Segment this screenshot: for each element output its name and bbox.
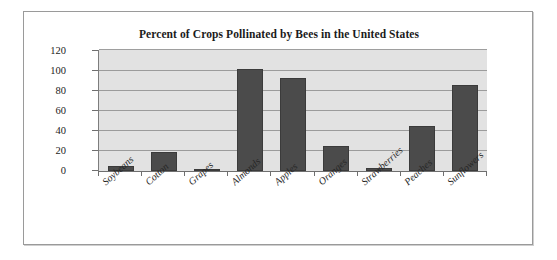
- bar-almonds: [237, 69, 263, 171]
- x-axis-tick-9: [486, 171, 487, 176]
- y-axis-label-0: 0: [26, 166, 66, 177]
- x-axis-tick-3: [227, 171, 228, 176]
- y-axis-label-120: 120: [26, 46, 66, 57]
- y-axis-label-40: 40: [26, 126, 66, 137]
- y-axis-label-100: 100: [26, 66, 66, 77]
- plot-top-rule: [99, 49, 487, 50]
- x-axis-tick-4: [270, 171, 271, 176]
- x-axis-tick-5: [314, 171, 315, 176]
- chart-title: Percent of Crops Pollinated by Bees in t…: [24, 28, 534, 40]
- bar-apples: [280, 78, 306, 171]
- x-axis-tick-1: [141, 171, 142, 176]
- x-axis-tick-8: [443, 171, 444, 176]
- y-axis-label-80: 80: [26, 86, 66, 97]
- plot-area: [98, 50, 487, 171]
- gridline-100: [99, 70, 487, 71]
- x-axis-tick-2: [184, 171, 185, 176]
- y-axis-label-20: 20: [26, 146, 66, 157]
- chart-figure-frame: Percent of Crops Pollinated by Bees in t…: [23, 11, 533, 245]
- y-axis-label-60: 60: [26, 106, 66, 117]
- x-axis-tick-7: [400, 171, 401, 176]
- x-axis-tick-6: [357, 171, 358, 176]
- x-axis-tick-0: [98, 171, 99, 176]
